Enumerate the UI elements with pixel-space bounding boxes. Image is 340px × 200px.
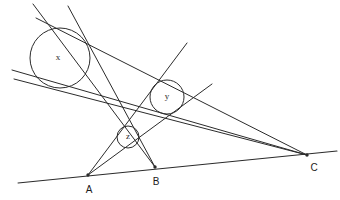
vertex-b-dot xyxy=(153,165,156,168)
circles-group xyxy=(30,28,184,148)
line-c-to-circle-x-upper-tangent xyxy=(36,18,307,155)
circle-x-label: x xyxy=(56,52,61,62)
vertex-b-label: B xyxy=(153,176,160,187)
line-b-to-upper-left-tangent xyxy=(33,4,155,167)
baseline-through-abc xyxy=(18,151,337,183)
vertex-a-label: A xyxy=(86,184,93,195)
vertex-a-dot xyxy=(86,173,89,176)
circle-z-label: z xyxy=(126,131,130,141)
line-a-to-top-tangent xyxy=(88,43,187,175)
baseline-group xyxy=(18,151,337,183)
vertex-c-label: C xyxy=(310,162,317,173)
construction-lines-group xyxy=(12,4,307,175)
geometry-canvas: xyzABC xyxy=(0,0,340,200)
vertex-c-dot xyxy=(305,153,308,156)
line-c-to-left-edge-tangent xyxy=(14,79,307,155)
geometry-diagram: xyzABC xyxy=(0,0,340,200)
circle-y-label: y xyxy=(165,91,170,101)
